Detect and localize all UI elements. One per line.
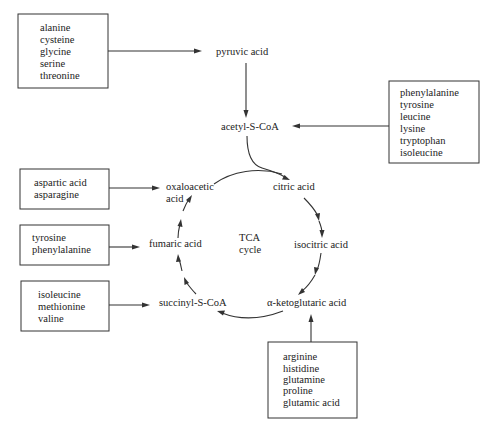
arrow-isocitric-to-ketoglutaric-2 [302, 275, 315, 291]
amino-acid-cysteine: cysteine [40, 34, 75, 45]
node-fumaric-acid: fumaric acid [149, 238, 203, 249]
amino-acid-asparagine: asparagine [34, 189, 79, 200]
arrow-succinyl-to-fumaric [186, 282, 196, 294]
amino-acid-histidine: histidine [283, 363, 320, 374]
arrowhead-icon [132, 245, 140, 250]
box-oxaloacetic-sources: aspartic acid asparagine [20, 169, 109, 209]
amino-acid-phenylalanine: phenylalanine [400, 87, 459, 98]
amino-acid-glutamic-acid: glutamic acid [283, 397, 341, 408]
arrow-ketoglutaric-to-succinyl [222, 311, 283, 318]
amino-acid-methionine: methionine [38, 301, 86, 312]
amino-acid-tyrosine: tyrosine [32, 232, 66, 243]
node-isocitric-acid: isocitric acid [294, 239, 349, 250]
arrowhead-icon [315, 213, 320, 221]
amino-acid-phenylalanine: phenylalanine [32, 244, 91, 255]
arrowhead-icon [178, 219, 183, 227]
center-label-tca: TCA [239, 232, 260, 243]
arc-oxaloacetic-citric [214, 171, 282, 184]
arrowhead-icon [292, 124, 300, 129]
box-pyruvic-sources: alanine cysteine glycine serine threonin… [18, 14, 108, 88]
amino-acid-threonine: threonine [40, 70, 80, 81]
amino-acid-serine: serine [40, 58, 65, 69]
tca-diagram: alanine cysteine glycine serine threonin… [0, 0, 491, 431]
box-succinyl-sources: isoleucine methionine valine [21, 281, 109, 331]
amino-acid-aspartic-acid: aspartic acid [34, 177, 88, 188]
arrowhead-icon [244, 110, 249, 118]
box-fumaric-sources: tyrosine phenylalanine [20, 225, 109, 265]
amino-acid-lysine: lysine [400, 123, 425, 134]
box-acetyl-sources: phenylalanine tyrosine leucine lysine tr… [389, 81, 479, 163]
amino-acid-isoleucine: isoleucine [38, 289, 81, 300]
node-pyruvic-acid: pyruvic acid [216, 46, 269, 57]
arrowhead-icon [314, 267, 319, 275]
arrowhead-icon [152, 186, 160, 191]
arrowhead-icon [194, 49, 202, 54]
node-alpha-ketoglutaric-acid: α-ketoglutaric acid [267, 297, 347, 308]
amino-acid-arginine: arginine [283, 351, 318, 362]
amino-acid-proline: proline [283, 385, 313, 396]
arrowhead-icon [217, 311, 225, 316]
amino-acid-alanine: alanine [40, 22, 71, 33]
amino-acid-glutamine: glutamine [283, 374, 325, 385]
arrowhead-icon [309, 314, 314, 322]
node-oxaloacetic-acid: oxaloacetic [166, 181, 214, 192]
amino-acid-leucine: leucine [400, 111, 431, 122]
node-succinyl-s-coa: succinyl-S-CoA [159, 297, 227, 308]
arrow-isocitric-to-ketoglutaric [317, 253, 321, 270]
node-citric-acid: citric acid [273, 181, 315, 192]
arrowhead-icon [184, 277, 189, 285]
arrowhead-icon [142, 303, 150, 308]
amino-acid-tryptophan: tryptophan [400, 135, 446, 146]
amino-acid-tyrosine: tyrosine [400, 99, 434, 110]
node-oxaloacetic-acid-line2: acid [166, 193, 184, 204]
arrowhead-icon [176, 254, 181, 262]
box-ketoglutaric-sources: arginine histidine glutamine proline glu… [268, 342, 357, 418]
arrow-citric-to-isocitric [304, 198, 318, 216]
node-acetyl-s-coa: acetyl-S-CoA [221, 121, 279, 132]
arrowhead-icon [320, 230, 325, 238]
amino-acid-isoleucine: isoleucine [400, 147, 443, 158]
center-label-cycle: cycle [239, 244, 261, 255]
amino-acid-glycine: glycine [40, 46, 71, 57]
amino-acid-valine: valine [38, 313, 64, 324]
